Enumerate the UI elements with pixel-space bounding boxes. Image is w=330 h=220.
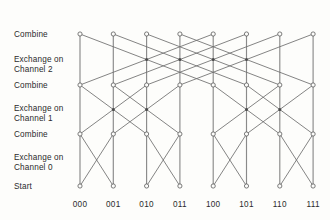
node-row-0-col-1[interactable] xyxy=(111,32,115,36)
node-row-3-col-0[interactable] xyxy=(78,184,82,188)
node-label-001: 001 xyxy=(106,200,121,209)
node-row-1-col-7[interactable] xyxy=(311,83,315,87)
stage-label-combine-top: Combine xyxy=(14,30,48,40)
crossing-dot-ch2-0 xyxy=(145,58,148,61)
node-row-1-col-3[interactable] xyxy=(178,83,182,87)
crossing-dot-ch1-1 xyxy=(145,108,148,111)
stage-label-combine-lower: Combine xyxy=(14,130,48,140)
node-row-3-col-4[interactable] xyxy=(211,184,215,188)
node-row-1-col-0[interactable] xyxy=(78,83,82,87)
node-row-3-col-5[interactable] xyxy=(244,184,248,188)
crossing-dot-ch2-1 xyxy=(178,58,181,61)
node-row-2-col-4[interactable] xyxy=(211,132,215,136)
edges-layer xyxy=(80,34,313,186)
node-label-101: 101 xyxy=(239,200,254,209)
node-label-000: 000 xyxy=(73,200,88,209)
stage-label-exchange-channel-2: Exchange on Channel 2 xyxy=(14,55,63,74)
stage-label-combine-middle: Combine xyxy=(14,81,48,91)
node-row-1-col-6[interactable] xyxy=(278,83,282,87)
node-row-3-col-2[interactable] xyxy=(145,184,149,188)
node-row-0-col-2[interactable] xyxy=(145,32,149,36)
node-row-3-col-6[interactable] xyxy=(278,184,282,188)
node-row-0-col-7[interactable] xyxy=(311,32,315,36)
diagram-root: CombineExchange on Channel 2CombineExcha… xyxy=(0,0,330,220)
node-row-0-col-4[interactable] xyxy=(211,32,215,36)
crossing-dot-ch1-3 xyxy=(278,108,281,111)
node-row-2-col-7[interactable] xyxy=(311,132,315,136)
node-row-2-col-6[interactable] xyxy=(278,132,282,136)
node-row-1-col-5[interactable] xyxy=(244,83,248,87)
node-label-110: 110 xyxy=(273,200,287,209)
node-row-2-col-5[interactable] xyxy=(244,132,248,136)
node-row-2-col-3[interactable] xyxy=(178,132,182,136)
crossing-dot-ch1-0 xyxy=(112,108,115,111)
stage-label-start: Start xyxy=(14,182,32,192)
node-row-3-col-3[interactable] xyxy=(178,184,182,188)
node-row-2-col-1[interactable] xyxy=(111,132,115,136)
crossing-dot-ch2-3 xyxy=(245,58,248,61)
stage-label-exchange-channel-0: Exchange on Channel 0 xyxy=(14,153,63,172)
crossing-dot-ch1-2 xyxy=(245,108,248,111)
node-row-2-col-2[interactable] xyxy=(145,132,149,136)
stage-label-exchange-channel-1: Exchange on Channel 1 xyxy=(14,104,63,123)
node-row-0-col-5[interactable] xyxy=(244,32,248,36)
node-label-100: 100 xyxy=(206,200,221,209)
node-row-0-col-0[interactable] xyxy=(78,32,82,36)
node-row-3-col-1[interactable] xyxy=(111,184,115,188)
node-row-3-col-7[interactable] xyxy=(311,184,315,188)
node-row-1-col-4[interactable] xyxy=(211,83,215,87)
node-label-011: 011 xyxy=(173,200,187,209)
node-row-2-col-0[interactable] xyxy=(78,132,82,136)
node-label-010: 010 xyxy=(139,200,154,209)
node-row-1-col-2[interactable] xyxy=(145,83,149,87)
node-row-1-col-1[interactable] xyxy=(111,83,115,87)
crossing-dot-ch2-2 xyxy=(212,58,215,61)
node-row-0-col-6[interactable] xyxy=(278,32,282,36)
node-label-111: 111 xyxy=(306,200,319,209)
node-row-0-col-3[interactable] xyxy=(178,32,182,36)
